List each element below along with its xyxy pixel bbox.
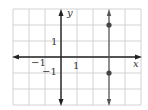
coordinate-plane: y x 1 −1 −1 1: [0, 0, 148, 110]
y-axis-label: y: [66, 7, 73, 18]
y-axis-up-arrow-icon: [59, 9, 64, 16]
x-tick-label-1: 1: [73, 60, 79, 71]
point-3-neg1: [106, 70, 111, 75]
point-3-2: [106, 22, 111, 27]
y-tick-label-1: 1: [51, 36, 57, 47]
line-up-arrow-icon: [107, 9, 111, 16]
x-tick-label-neg1: −1: [31, 57, 46, 68]
x-axis-label: x: [133, 58, 139, 69]
